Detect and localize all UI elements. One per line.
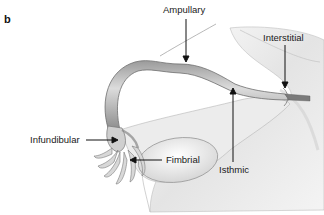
label-infundibular: Infundibular	[30, 135, 80, 145]
label-interstitial: Interstitial	[263, 33, 304, 43]
label-isthmic: Isthmic	[219, 165, 249, 175]
label-fimbrial: Fimbrial	[166, 155, 200, 165]
panel-label: b	[4, 14, 11, 25]
label-ampullary: Ampullary	[163, 5, 205, 15]
diagram: b Ampullary Interstitial Infundibular Fi…	[0, 0, 324, 215]
